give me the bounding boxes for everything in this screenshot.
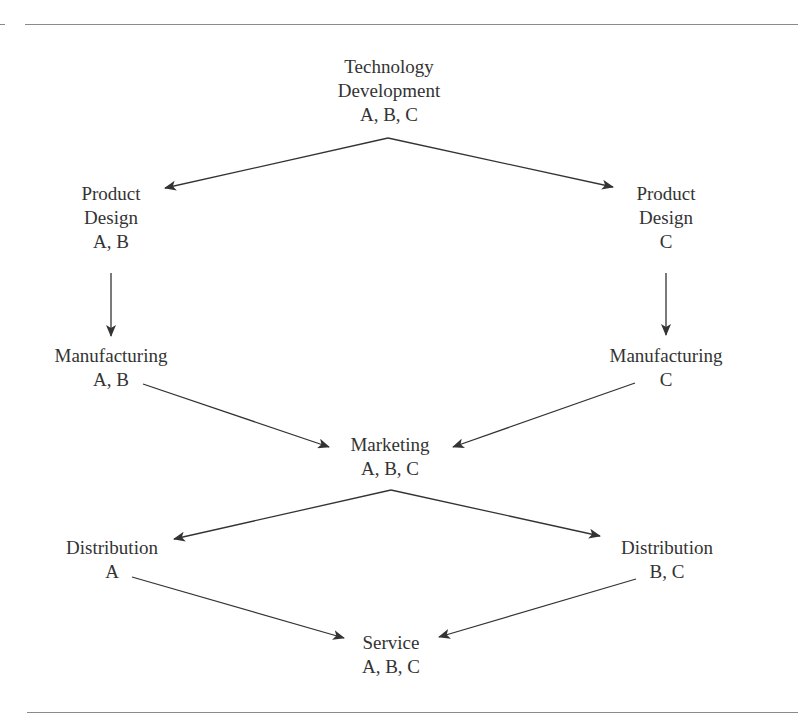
node-distribution-bc: Distribution B, C — [621, 536, 713, 584]
node-label: Distribution — [66, 536, 158, 560]
node-product-design-ab: Product Design A, B — [81, 182, 140, 254]
node-label: Marketing — [350, 433, 429, 457]
edge-mfg-ab-to-marketing — [143, 384, 329, 447]
node-products: C — [610, 368, 723, 392]
node-label: Product — [81, 182, 140, 206]
node-technology-development: Technology Development A, B, C — [338, 55, 440, 127]
node-products: C — [636, 230, 695, 254]
node-label: Manufacturing — [610, 344, 723, 368]
node-label: Service — [362, 631, 420, 655]
edge-dist-bc-to-service — [439, 579, 636, 637]
node-label: Design — [81, 206, 140, 230]
edge-marketing-to-dist-a — [174, 490, 391, 539]
node-products: A, B, C — [350, 457, 429, 481]
node-label: Technology — [338, 55, 440, 79]
node-products: A, B, C — [362, 655, 420, 679]
node-products: A — [66, 560, 158, 584]
node-label: Design — [636, 206, 695, 230]
node-marketing: Marketing A, B, C — [350, 433, 429, 481]
value-chain-diagram: Technology Development A, B, C Product D… — [0, 0, 798, 727]
node-service: Service A, B, C — [362, 631, 420, 679]
edge-tech-to-design-c — [388, 138, 613, 187]
edge-marketing-to-dist-bc — [391, 490, 600, 536]
node-manufacturing-c: Manufacturing C — [610, 344, 723, 392]
edge-mfg-c-to-marketing — [453, 383, 635, 447]
node-label: Manufacturing — [55, 344, 168, 368]
edge-tech-to-design-ab — [165, 138, 388, 188]
node-product-design-c: Product Design C — [636, 182, 695, 254]
node-label: Distribution — [621, 536, 713, 560]
node-label: Product — [636, 182, 695, 206]
node-label: Development — [338, 79, 440, 103]
node-manufacturing-ab: Manufacturing A, B — [55, 344, 168, 392]
node-products: A, B — [81, 230, 140, 254]
node-distribution-a: Distribution A — [66, 536, 158, 584]
node-products: A, B, C — [338, 103, 440, 127]
node-products: B, C — [621, 560, 713, 584]
edge-dist-a-to-service — [132, 577, 344, 638]
node-products: A, B — [55, 368, 168, 392]
